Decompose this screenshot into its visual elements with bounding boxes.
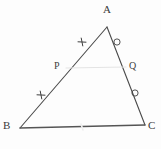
point-label-q: Q — [129, 61, 136, 71]
geometry-figure: A B C P Q — [0, 0, 161, 149]
point-label-p: P — [54, 61, 60, 71]
tick-mark-ap — [78, 38, 86, 46]
side-ab-line — [20, 27, 107, 128]
segment-pq-line — [66, 67, 126, 68]
faint-tick-mark-bc — [81, 124, 83, 130]
geometry-canvas — [0, 0, 161, 149]
vertex-label-c: C — [148, 120, 155, 131]
circle-mark-aq — [114, 39, 120, 45]
vertex-label-a: A — [103, 4, 111, 15]
tick-mark-pb — [37, 91, 45, 99]
side-ac-line — [107, 27, 145, 125]
vertex-label-b: B — [3, 120, 10, 131]
